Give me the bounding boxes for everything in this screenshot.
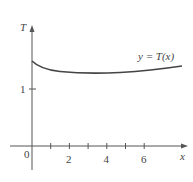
y-tick-label-1: 1 [20,83,26,95]
curve-T [32,61,182,73]
x-axis-arrow-icon [181,144,188,149]
chart: T x 0 1 2 4 6 y = T(x) [0,0,193,182]
y-axis-label: T [20,21,27,33]
origin-label: 0 [24,148,30,160]
curve-label: y = T(x) [137,50,174,63]
x-tick-label-6: 6 [141,153,147,165]
x-tick-label-4: 4 [104,153,110,165]
x-axis-label: x [179,150,185,162]
y-axis-arrow-icon [30,25,35,32]
x-tick-label-2: 2 [66,153,72,165]
